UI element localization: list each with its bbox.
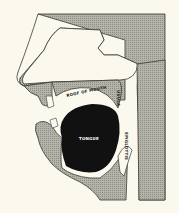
mouth-cross-section-diagram bbox=[0, 0, 179, 213]
label-epiglottis: EPIGLOTTIS bbox=[124, 132, 129, 160]
soft-palate bbox=[52, 80, 122, 108]
pharynx-wall bbox=[137, 60, 165, 200]
label-uvula: UVULA bbox=[116, 90, 121, 106]
label-tongue: TONGUE bbox=[79, 136, 99, 141]
